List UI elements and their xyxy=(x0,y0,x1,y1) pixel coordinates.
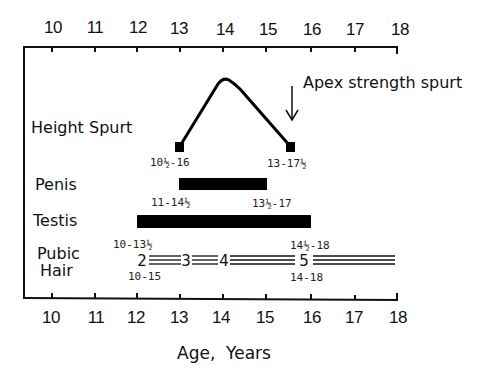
top-tick-15: 15 xyxy=(259,20,277,40)
pubic-end-range-top: 14½-18 xyxy=(290,239,330,252)
top-tick-12: 12 xyxy=(129,18,147,38)
top-tick-11: 11 xyxy=(87,18,104,38)
top-axis xyxy=(24,47,398,54)
top-tick-13: 13 xyxy=(170,19,188,39)
bottom-tick-15: 15 xyxy=(256,308,274,328)
pubic-start-range-bottom: 10-15 xyxy=(128,270,161,283)
penis-bar xyxy=(179,178,267,190)
bottom-tick-18: 18 xyxy=(389,308,407,328)
label-penis: Penis xyxy=(35,175,77,194)
pubic-stage-5: 5 xyxy=(299,252,309,270)
height-start-range: 10½-16 xyxy=(150,156,190,169)
bottom-tick-16: 16 xyxy=(303,308,321,328)
pubic-end-range-bottom: 14-18 xyxy=(290,271,323,284)
apex-annotation: Apex strength spurt xyxy=(303,73,462,92)
bottom-tick-13: 13 xyxy=(170,308,188,328)
pubic-stage-3: 3 xyxy=(181,252,191,270)
height-end-range: 13-17½ xyxy=(267,157,307,170)
pubic-stage-2: 2 xyxy=(137,252,147,270)
height-spurt-end-marker xyxy=(286,142,295,152)
x-axis-title: Age, Years xyxy=(177,343,271,363)
bottom-tick-10: 10 xyxy=(42,308,60,328)
height-spurt-start-marker xyxy=(175,142,184,152)
pubic-stage-4: 4 xyxy=(219,252,229,270)
label-hair: Hair xyxy=(40,261,73,280)
label-height-spurt: Height Spurt xyxy=(31,118,132,137)
label-testis: Testis xyxy=(33,211,77,230)
top-tick-10: 10 xyxy=(44,18,62,38)
bottom-tick-17: 17 xyxy=(345,308,363,328)
bottom-tick-12: 12 xyxy=(127,308,145,328)
penis-end-range: 13½-17 xyxy=(252,197,292,210)
top-tick-17: 17 xyxy=(346,20,364,40)
bottom-axis xyxy=(24,293,398,300)
top-tick-16: 16 xyxy=(303,20,321,40)
top-tick-14: 14 xyxy=(216,20,234,40)
bottom-tick-14: 14 xyxy=(212,308,230,328)
penis-start-range: 11-14½ xyxy=(151,196,191,209)
top-tick-18: 18 xyxy=(391,20,409,40)
height-spurt-curve xyxy=(180,79,290,146)
apex-arrow-icon xyxy=(286,86,298,120)
pubic-start-range-top: 10-13½ xyxy=(113,238,153,251)
testis-bar xyxy=(137,215,311,228)
bottom-tick-11: 11 xyxy=(88,308,105,328)
